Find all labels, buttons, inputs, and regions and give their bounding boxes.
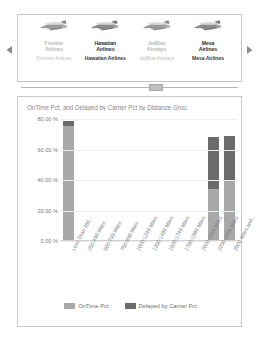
bar-segment-delayed-by-carrier-pct[interactable] bbox=[224, 136, 235, 181]
y-axis-tick-label: 40.00 % bbox=[37, 177, 58, 183]
carousel-prev-arrow-icon[interactable] bbox=[4, 42, 16, 54]
airline-carousel: Frontier Airlines Frontier Airlines bbox=[0, 14, 259, 86]
y-axis-tick-label: 0.00 % bbox=[41, 238, 58, 244]
legend-label: Delayed by Carrier Pct bbox=[139, 303, 197, 309]
dashboard-root: Frontier Airlines Frontier Airlines bbox=[0, 0, 259, 342]
airplane-icon bbox=[140, 17, 174, 39]
gridline bbox=[60, 241, 238, 242]
carousel-scroll-slider[interactable] bbox=[21, 83, 238, 93]
carousel-item-subtitle: JetBlue Airways bbox=[134, 55, 180, 61]
gridline bbox=[60, 150, 238, 151]
carousel-next-arrow-icon[interactable] bbox=[243, 42, 255, 54]
carousel-item-hawaiian-airlines[interactable]: Hawaiian Airlines Hawaiian Airlines bbox=[81, 17, 129, 62]
carousel-track: Frontier Airlines Frontier Airlines bbox=[30, 17, 232, 81]
chart-title: OnTime Pct, and Delayed by Carrier Pct b… bbox=[27, 104, 243, 111]
carousel-item-title: Frontier Airlines bbox=[31, 40, 77, 52]
chart-panel: OnTime Pct, and Delayed by Carrier Pct b… bbox=[17, 96, 242, 327]
carousel-item-mesa-airlines[interactable]: Mesa Airlines Mesa Airlines bbox=[184, 17, 232, 62]
carousel-item-title: Hawaiian Airlines bbox=[82, 40, 128, 52]
slider-track[interactable] bbox=[21, 87, 238, 88]
slider-thumb[interactable] bbox=[149, 84, 163, 91]
carousel-item-title: JetBlue Airways bbox=[134, 40, 180, 52]
carousel-item-title: Mesa Airlines bbox=[185, 40, 231, 52]
y-axis: 0.00 %20.00 %40.00 %60.00 %80.00 % bbox=[20, 119, 58, 241]
y-axis-tick-label: 20.00 % bbox=[37, 208, 58, 214]
carousel-item-jetblue-airways[interactable]: JetBlue Airways JetBlue Airways bbox=[133, 17, 181, 62]
legend-label: OnTime Pct bbox=[78, 303, 108, 309]
carousel-item-subtitle: Hawaiian Airlines bbox=[82, 55, 128, 61]
bar-segment-ontime-pct[interactable] bbox=[63, 126, 74, 241]
carousel-item-subtitle: Frontier Airlines bbox=[31, 55, 77, 61]
gridline bbox=[60, 119, 238, 120]
y-axis-tick-label: 80.00 % bbox=[37, 116, 58, 122]
carousel-panel: Frontier Airlines Frontier Airlines bbox=[17, 14, 242, 82]
carousel-item-frontier-airlines[interactable]: Frontier Airlines Frontier Airlines bbox=[30, 17, 78, 62]
bar-segment-delayed-by-carrier-pct[interactable] bbox=[208, 137, 219, 190]
legend-swatch-icon bbox=[64, 303, 75, 309]
y-axis-tick-label: 60.00 % bbox=[37, 147, 58, 153]
legend-item-ontime-pct[interactable]: OnTime Pct bbox=[64, 303, 108, 309]
gridline bbox=[60, 211, 238, 212]
legend-item-delayed-by-carrier-pct[interactable]: Delayed by Carrier Pct bbox=[125, 303, 197, 309]
x-axis-labels: Less Than 250...250-499 Miles500-749 Mil… bbox=[60, 249, 238, 305]
airplane-icon bbox=[88, 17, 122, 39]
gridline bbox=[60, 180, 238, 181]
legend-swatch-icon bbox=[125, 303, 136, 309]
airplane-icon bbox=[191, 17, 225, 39]
airplane-icon bbox=[37, 17, 71, 39]
chart-legend: OnTime Pct Delayed by Carrier Pct bbox=[18, 303, 243, 309]
carousel-item-subtitle: Mesa Airlines bbox=[185, 55, 231, 61]
